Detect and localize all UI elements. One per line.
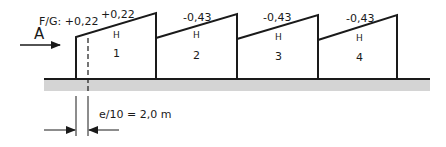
building-2-number: 2 [193,49,200,62]
building-4-number: 4 [356,51,363,64]
building-4-zone: H [356,33,363,43]
building-4-coefficient: -0,43 [346,12,374,25]
facade-coefficient-label: F/G: +0,22 [39,15,98,28]
building-2-zone: H [193,30,200,40]
dimension-label: e/10 = 2,0 m [99,108,171,121]
building-1-coefficient: +0,22 [101,8,135,21]
building-3-coefficient: -0,43 [263,11,291,24]
building-3-zone: H [275,32,282,42]
sawtooth-roof-diagram: A F/G: +0,22 +0,22 H 1 -0,43 H 2 -0,43 H… [0,0,446,147]
ground-band [44,80,430,91]
building-3-outline [237,15,318,79]
building-1-number: 1 [113,47,120,60]
building-1-zone: H [113,30,120,40]
building-2-coefficient: -0,43 [183,11,211,24]
building-3-number: 3 [275,50,282,63]
